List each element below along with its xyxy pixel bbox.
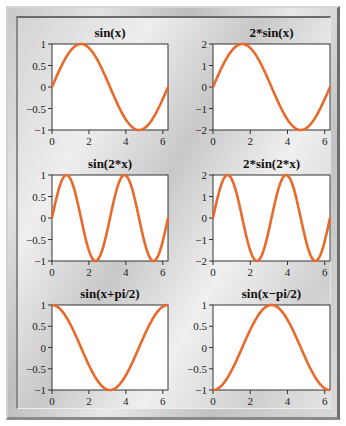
x-tick-label: 0 [49,135,55,147]
x-tick-label: 2 [86,266,92,278]
x-tick-label: 0 [210,395,216,407]
y-tick-label: −0.5 [187,363,207,375]
plot-canvas: 024610.50−0.5−10246210−1−2024610.50−0.5−… [0,0,346,426]
x-tick-label: 6 [160,135,166,147]
y-tick-label: −1 [195,234,207,246]
y-tick-label: 0 [41,81,47,93]
y-tick-label: −1 [34,255,46,267]
x-tick-label: 2 [247,395,253,407]
y-tick-label: −1 [195,103,207,115]
x-tick-label: 0 [210,135,216,147]
x-tick-label: 4 [123,395,129,407]
y-tick-label: 1 [41,38,47,50]
y-tick-label: 0.5 [32,191,46,203]
x-tick-label: 6 [160,395,166,407]
x-tick-label: 6 [160,266,166,278]
y-tick-label: 0 [202,342,208,354]
y-tick-label: 0 [202,212,208,224]
x-tick-label: 2 [86,135,92,147]
plot-area [52,305,168,390]
subplot-6: 024610.50−0.5−1 [187,299,330,407]
y-tick-label: 2 [202,169,208,181]
x-tick-label: 6 [322,266,328,278]
x-tick-label: 2 [247,135,253,147]
y-tick-label: 0 [41,342,47,354]
y-tick-label: 0 [202,81,208,93]
subplot-4: 0246210−1−2 [195,169,330,278]
y-tick-label: 1 [41,299,47,311]
plot-area [213,305,330,390]
x-tick-label: 4 [285,135,291,147]
subplot-1: 024610.50−0.5−1 [26,38,168,147]
y-tick-label: −1 [195,384,207,396]
x-tick-label: 2 [86,395,92,407]
y-tick-label: −1 [34,124,46,136]
y-tick-label: 1 [202,191,208,203]
x-tick-label: 4 [285,266,291,278]
y-tick-label: −1 [34,384,46,396]
x-tick-label: 4 [123,135,129,147]
x-tick-label: 4 [285,395,291,407]
y-tick-label: −2 [195,255,207,267]
x-tick-label: 6 [322,395,328,407]
x-tick-label: 2 [247,266,253,278]
subplot-2: 0246210−1−2 [195,38,330,147]
y-tick-label: 0 [41,212,47,224]
y-tick-label: 1 [41,169,47,181]
x-tick-label: 6 [322,135,328,147]
x-tick-label: 0 [210,266,216,278]
subplot-5: 024610.50−0.5−1 [26,299,168,407]
y-tick-label: −0.5 [26,103,46,115]
y-tick-label: −2 [195,124,207,136]
y-tick-label: 2 [202,38,208,50]
x-tick-label: 4 [123,266,129,278]
y-tick-label: −0.5 [26,234,46,246]
y-tick-label: 0.5 [32,60,46,72]
x-tick-label: 0 [49,395,55,407]
y-tick-label: 1 [202,299,208,311]
y-tick-label: −0.5 [26,363,46,375]
subplot-3: 024610.50−0.5−1 [26,169,168,278]
y-tick-label: 0.5 [32,320,46,332]
y-tick-label: 1 [202,60,208,72]
x-tick-label: 0 [49,266,55,278]
y-tick-label: 0.5 [193,320,207,332]
